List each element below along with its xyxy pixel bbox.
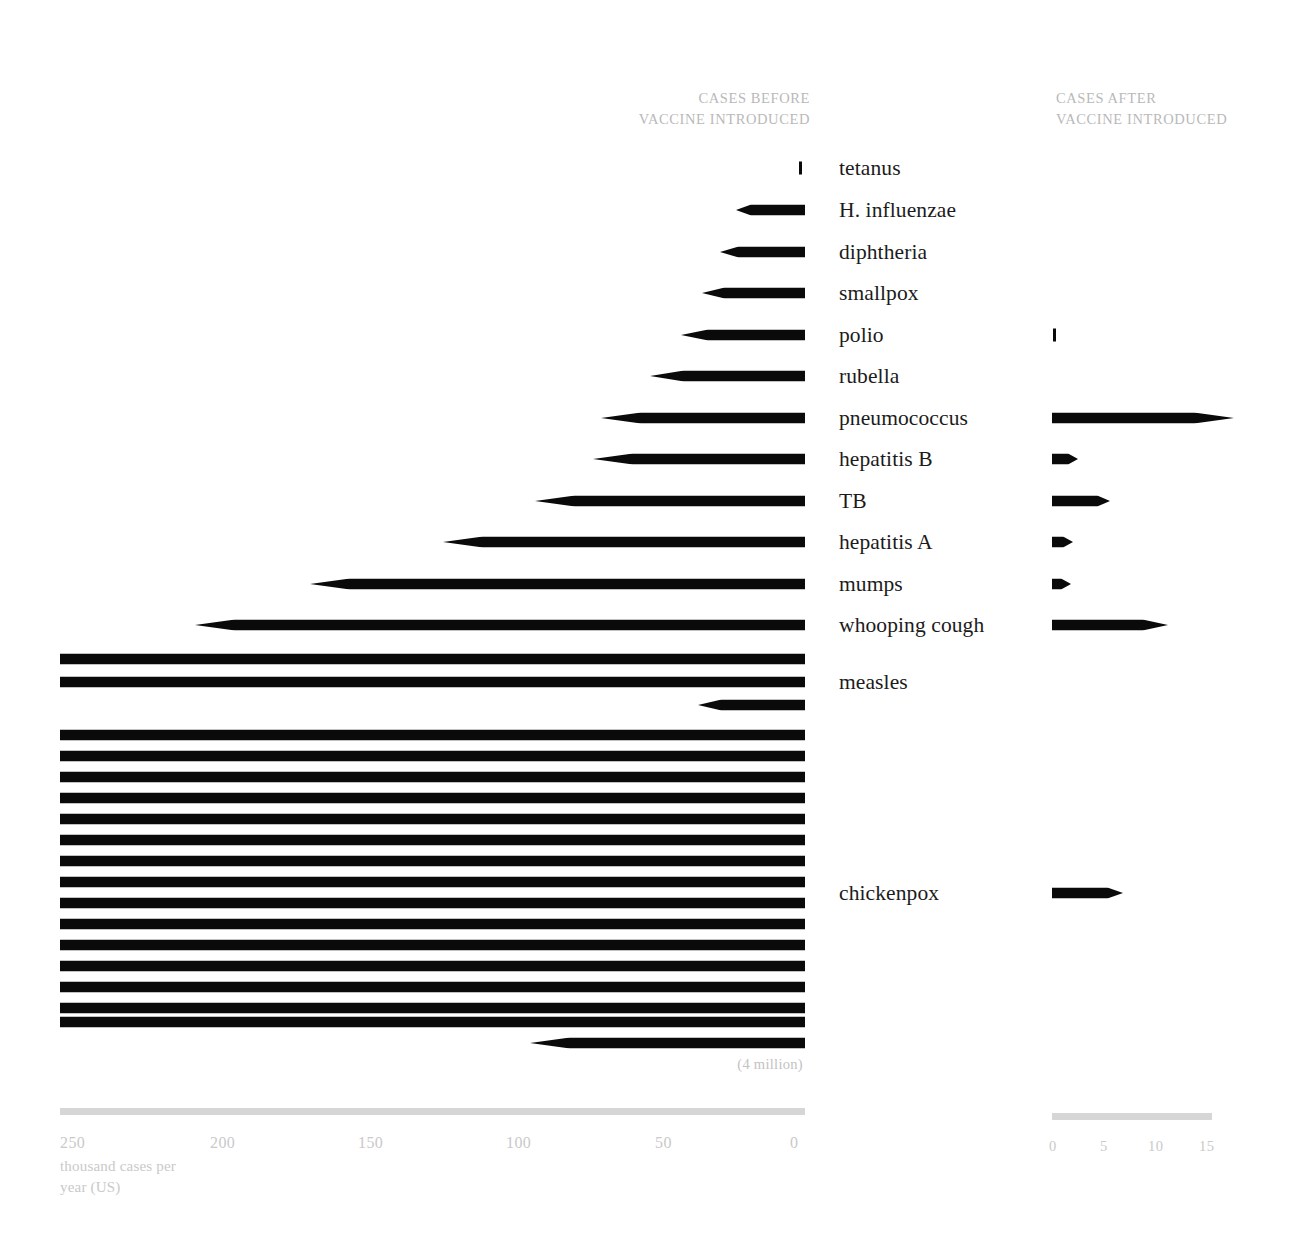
bar-before-chickenpox-wrap-6 [60,835,805,846]
right-axis-tick-5: 5 [1100,1138,1108,1155]
chart-canvas: CASES BEFORE VACCINE INTRODUCED CASES AF… [0,0,1295,1243]
left-axis-tick-250: 250 [60,1134,85,1152]
bar-after-pneumococcus [1052,413,1234,424]
bar-before-hepatitis-a [443,537,805,548]
bar-before-chickenpox-wrap-12 [60,961,805,972]
bar-before-chickenpox-wrap-10 [60,919,805,930]
bar-before-mumps [310,579,805,590]
disease-label-tetanus: tetanus [839,156,901,181]
disease-label-whooping-cough: whooping cough [839,613,984,638]
bar-before-chickenpox-wrap-14 [60,1003,805,1014]
bar-before-measles-wrap-last [698,700,805,711]
disease-label-h-influenzae: H. influenzae [839,198,956,223]
bar-before-hepatitis-b [593,454,805,465]
bar-before-smallpox [702,288,805,299]
bar-before-chickenpox-wrap-5 [60,814,805,825]
bar-before-chickenpox-wrap-1 [60,730,805,741]
disease-label-hepatitis-b: hepatitis B [839,447,933,472]
disease-label-polio: polio [839,323,884,348]
four-million-annotation: (4 million) [655,1056,803,1073]
disease-label-hepatitis-a: hepatitis A [839,530,933,555]
disease-label-measles: measles [839,670,908,695]
bar-before-chickenpox-wrap-8 [60,877,805,888]
disease-label-tb: TB [839,489,867,514]
disease-label-mumps: mumps [839,572,903,597]
bar-before-whooping-cough [195,620,805,631]
bar-before-rubella [650,371,805,382]
bar-before-tetanus-tick [799,162,802,175]
left-axis-tick-200: 200 [210,1134,235,1152]
left-axis-caption: thousand cases per year (US) [60,1156,180,1199]
bar-after-hepatitis-a [1052,537,1073,548]
left-axis-tick-50: 50 [655,1134,672,1152]
right-axis-rule [1052,1113,1212,1120]
right-axis-tick-10: 10 [1148,1138,1163,1155]
bar-after-chickenpox [1052,888,1123,899]
right-axis-tick-0: 0 [1049,1138,1057,1155]
disease-label-diphtheria: diphtheria [839,240,927,265]
bar-before-chickenpox-wrap-last [530,1038,805,1049]
bar-after-hepatitis-b [1052,454,1078,465]
left-axis-rule [60,1108,805,1115]
bar-before-chickenpox-wrap-9 [60,898,805,909]
bar-before-h-influenzae [736,205,805,216]
bar-after-whooping-cough [1052,620,1168,631]
bar-before-chickenpox-wrap-11 [60,940,805,951]
bar-before-chickenpox-wrap-2 [60,751,805,762]
bar-before-chickenpox-wrap-3 [60,772,805,783]
bar-before-polio [681,330,805,341]
bar-before-measles-wrap-1 [60,654,805,665]
right-axis-tick-15: 15 [1199,1138,1214,1155]
bar-before-chickenpox-wrap-4 [60,793,805,804]
disease-label-smallpox: smallpox [839,281,919,306]
column-header-cases-before: CASES BEFORE VACCINE INTRODUCED [630,88,810,130]
left-axis-tick-100: 100 [506,1134,531,1152]
bar-after-mumps [1052,579,1071,590]
left-axis-tick-0: 0 [790,1134,798,1152]
bar-before-measles-wrap-2 [60,677,805,688]
disease-label-pneumococcus: pneumococcus [839,406,968,431]
bar-before-chickenpox-wrap-15 [60,1017,805,1028]
column-header-cases-after: CASES AFTER VACCINE INTRODUCED [1056,88,1295,130]
bar-after-tb [1052,496,1110,507]
bar-before-tb [535,496,805,507]
disease-label-chickenpox: chickenpox [839,881,939,906]
bar-before-chickenpox-wrap-7 [60,856,805,867]
bar-before-chickenpox-wrap-13 [60,982,805,993]
bar-before-diphtheria [720,247,805,258]
disease-label-rubella: rubella [839,364,899,389]
bar-after-polio-tick [1053,329,1056,342]
bar-before-pneumococcus [601,413,805,424]
left-axis-tick-150: 150 [358,1134,383,1152]
